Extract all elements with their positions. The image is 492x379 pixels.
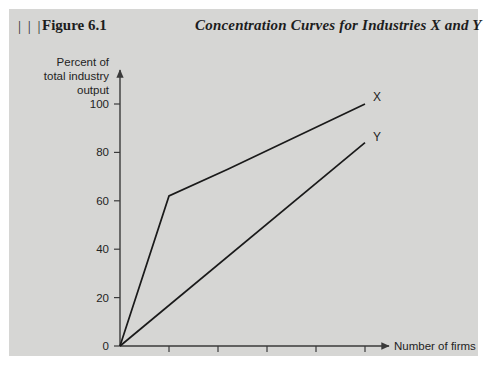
plot-area: Percent of total industry output Number … — [9, 43, 478, 356]
series-label-x: X — [373, 90, 381, 104]
concentration-curves-chart: 0 20 40 60 80 100 0 1 2 3 4 5 — [9, 43, 478, 356]
figure-rule-marks: | | | — [18, 19, 42, 34]
series-label-y: Y — [373, 130, 381, 144]
curve-series-x — [120, 104, 365, 346]
x-axis-ticks — [169, 346, 365, 352]
figure-number-label: Figure 6.1 — [42, 17, 107, 34]
y-axis-ticks — [114, 104, 120, 346]
figure-panel: | | | Figure 6.1 Concentration Curves fo… — [9, 9, 478, 356]
curve-series-y — [120, 143, 365, 346]
y-tick-label-80: 80 — [96, 146, 109, 158]
y-tick-label-40: 40 — [96, 243, 109, 255]
y-tick-label-100: 100 — [90, 98, 109, 110]
y-tick-label-60: 60 — [96, 195, 109, 207]
y-tick-label-0: 0 — [103, 340, 109, 352]
figure-header: | | | Figure 6.1 Concentration Curves fo… — [9, 9, 478, 43]
figure-title: Concentration Curves for Industries X an… — [195, 17, 482, 34]
y-tick-label-20: 20 — [96, 292, 109, 304]
